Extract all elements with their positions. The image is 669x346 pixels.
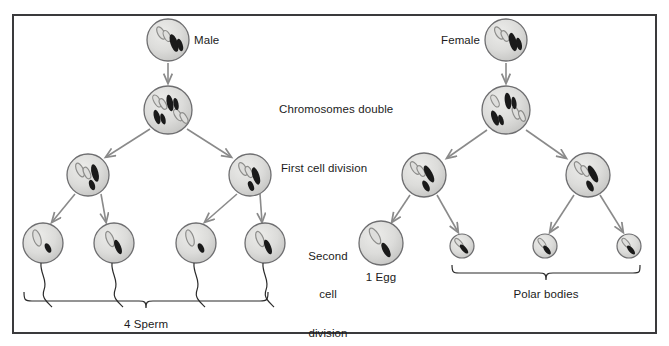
male-parent-cell bbox=[147, 19, 189, 61]
polar-body-2 bbox=[533, 234, 557, 258]
label-male: Male bbox=[194, 34, 219, 47]
polar-body-1 bbox=[450, 234, 474, 258]
label-second-cell-division: Second cell division bbox=[297, 224, 359, 346]
male-doubled-cell bbox=[144, 86, 192, 134]
sperm-cell-4 bbox=[245, 223, 285, 307]
female-secondary-cell-right bbox=[566, 153, 610, 197]
female-secondary-cell-left bbox=[402, 153, 446, 197]
polar-body-3 bbox=[617, 234, 641, 258]
diagram-canvas: Male Female Chromosomes double First cel… bbox=[0, 0, 669, 346]
brace-polar-bodies bbox=[452, 265, 640, 280]
label-second-cell-division-line-1: Second bbox=[297, 250, 359, 263]
sperm-cell-3 bbox=[176, 223, 216, 307]
label-chromosomes-double: Chromosomes double bbox=[279, 103, 393, 116]
label-first-cell-division: First cell division bbox=[281, 162, 367, 175]
label-one-egg: 1 Egg bbox=[351, 271, 411, 284]
label-second-cell-division-line-2: cell bbox=[297, 288, 359, 301]
label-female: Female bbox=[408, 34, 480, 47]
label-four-sperm: 4 Sperm bbox=[108, 318, 184, 331]
sperm-cell-2 bbox=[94, 223, 134, 307]
male-secondary-cell-left bbox=[67, 154, 109, 196]
label-second-cell-division-line-3: division bbox=[297, 327, 359, 340]
female-parent-cell bbox=[485, 19, 527, 61]
sperm-cell-1 bbox=[23, 223, 63, 307]
male-secondary-cell-right bbox=[229, 154, 271, 196]
egg-cell bbox=[359, 221, 403, 265]
brace-sperm bbox=[24, 292, 268, 308]
label-polar-bodies: Polar bodies bbox=[503, 288, 589, 301]
female-doubled-cell bbox=[482, 86, 530, 134]
